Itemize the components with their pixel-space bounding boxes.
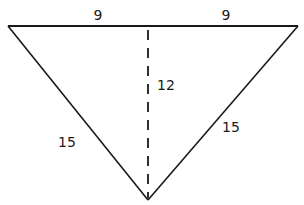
label-left-side: 15 xyxy=(58,135,76,149)
label-top-right-half: 9 xyxy=(222,8,231,22)
label-top-left-half: 9 xyxy=(94,8,103,22)
right-side xyxy=(148,26,298,200)
triangle-diagram xyxy=(0,0,304,205)
left-side xyxy=(8,26,148,200)
label-altitude: 12 xyxy=(157,78,175,92)
label-right-side: 15 xyxy=(222,120,240,134)
